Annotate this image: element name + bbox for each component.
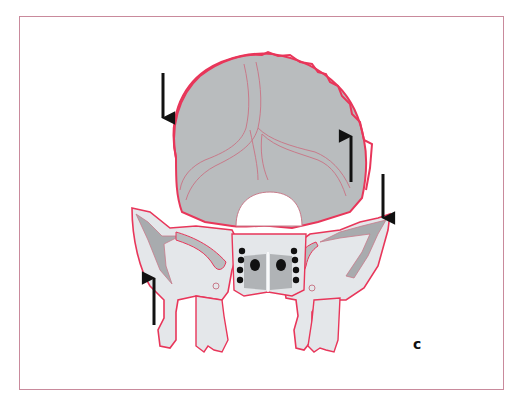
anatomical-figure: c (0, 0, 519, 394)
panel-label: c (413, 336, 421, 352)
cranial-vault (174, 52, 372, 228)
skull-diagram (0, 0, 519, 394)
